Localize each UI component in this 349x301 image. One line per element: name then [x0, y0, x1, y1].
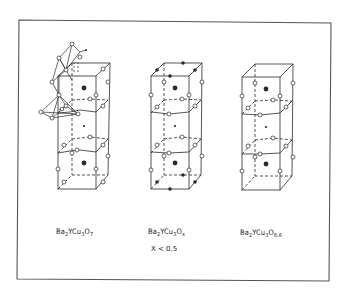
formula-label-left: Ba2YCu3O7	[56, 227, 93, 237]
crystal-structure-figure	[0, 0, 349, 301]
formula-element: YCu	[160, 227, 173, 236]
formula-subscript: 7	[90, 231, 93, 237]
formula-subscript: x	[182, 231, 185, 237]
structure-right-atoms	[240, 81, 295, 173]
formula-subscript: 6.6	[274, 232, 282, 238]
formula-element: YCu	[252, 228, 265, 237]
condition-label-middle: X < 0.5	[151, 245, 177, 253]
formula-element: Ba	[56, 227, 65, 236]
formula-element: YCu	[68, 227, 81, 236]
formula-label-right: Ba2YCu3O6.6	[240, 228, 282, 238]
structure-middle-unit-cell	[151, 63, 202, 189]
formula-element: Ba	[240, 228, 249, 237]
formula-element: Ba	[148, 227, 157, 236]
figure-frame	[17, 20, 331, 281]
structure-right-unit-cell	[242, 64, 293, 190]
formula-label-middle: Ba2YCu3Ox	[148, 227, 185, 237]
structure-middle-atoms	[149, 61, 204, 191]
